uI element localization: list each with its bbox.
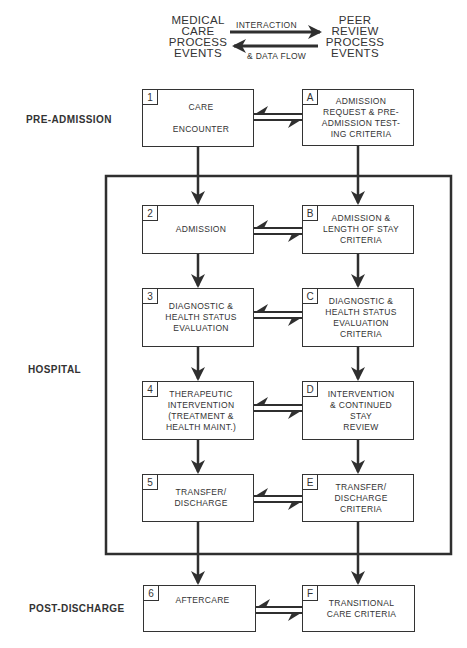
box-id-badge: 4 (143, 382, 158, 397)
box-label: TRANSITIONAL CARE CRITERIA (317, 598, 401, 620)
box-label: DIAGNOSTIC & HEALTH STATUS EVALUATION (155, 301, 240, 334)
box-id-badge: B (303, 206, 318, 221)
box-id-badge: D (303, 382, 318, 397)
box-id-badge: E (303, 475, 318, 490)
box-label: TRANSFER/ DISCHARGE (164, 487, 231, 509)
box-label: THERAPEUTIC INTERVENTION (TREATMENT & HE… (156, 389, 240, 433)
box-label: TRANSFER/ DISCHARGE CRITERIA (324, 482, 391, 515)
box-id-badge: 6 (144, 586, 159, 601)
box-id-badge: F (303, 586, 318, 601)
peer-review-box-D: D INTERVENTION & CONTINUED STAY REVIEW (302, 381, 414, 440)
box-id-badge: A (303, 90, 318, 105)
box-label: AFTERCARE (165, 595, 233, 606)
legend-interaction-label: INTERACTION (236, 20, 297, 30)
legend-arrows (230, 32, 320, 46)
medical-care-box-5: 5 TRANSFER/ DISCHARGE (142, 474, 254, 522)
medical-care-box-4: 4 THERAPEUTIC INTERVENTION (TREATMENT & … (142, 381, 254, 440)
peer-review-box-A: A ADMISSION REQUEST & PRE- ADMISSION TES… (302, 89, 414, 146)
peer-review-box-B: B ADMISSION & LENGTH OF STAY CRITERIA (302, 205, 414, 254)
box-id-badge: 2 (143, 206, 158, 221)
phase-label-pre-admission: PRE-ADMISSION (26, 114, 112, 125)
peer-review-box-F: F TRANSITIONAL CARE CRITERIA (302, 585, 415, 632)
medical-care-box-2: 2 ADMISSION (142, 205, 254, 254)
peer-review-box-C: C DIAGNOSTIC & HEALTH STATUS EVALUATION … (302, 288, 414, 347)
medical-care-box-1: 1 CARE ENCOUNTER (142, 89, 254, 147)
box-id-badge: 3 (143, 289, 158, 304)
peer-review-box-E: E TRANSFER/ DISCHARGE CRITERIA (302, 474, 414, 522)
box-id-badge: 1 (143, 90, 158, 105)
box-label: ADMISSION (166, 224, 230, 235)
medical-care-box-3: 3 DIAGNOSTIC & HEALTH STATUS EVALUATION (142, 288, 254, 347)
medical-care-box-6: 6 AFTERCARE (143, 585, 256, 632)
legend-medical-care-label: MEDICAL CARE PROCESS EVENTS (168, 15, 228, 59)
phase-label-post-discharge: POST-DISCHARGE (29, 603, 125, 614)
box-label: INTERVENTION & CONTINUED STAY REVIEW (318, 389, 399, 433)
box-id-badge: 5 (143, 475, 158, 490)
box-label: ADMISSION & LENGTH OF STAY CRITERIA (313, 213, 403, 246)
interaction-connectors (254, 106, 302, 621)
legend-data-flow-label: & DATA FLOW (247, 51, 306, 61)
legend-peer-review-label: PEER REVIEW PROCESS EVENTS (322, 15, 388, 59)
box-label: ADMISSION REQUEST & PRE- ADMISSION TEST-… (312, 96, 405, 140)
box-id-badge: C (303, 289, 318, 304)
phase-label-hospital: HOSPITAL (28, 364, 81, 375)
box-label: CARE ENCOUNTER (163, 102, 234, 135)
box-label: DIAGNOSTIC & HEALTH STATUS EVALUATION CR… (315, 296, 400, 340)
